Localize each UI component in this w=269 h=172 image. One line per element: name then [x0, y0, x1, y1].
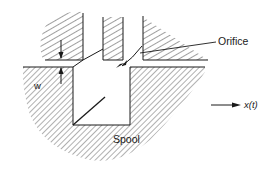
spool-valve-diagram: Orifice Spool w x(t): [0, 0, 269, 172]
orifice-label: Orifice: [218, 36, 248, 47]
opening-width-label: w: [34, 81, 41, 91]
displacement-label: x(t): [244, 100, 258, 110]
displacement-arrow: [211, 103, 241, 108]
sleeve-block-right: [143, 16, 208, 60]
spool-body: [23, 67, 205, 161]
spool-label: Spool: [113, 134, 140, 145]
sleeve-land-middle: [103, 17, 123, 60]
